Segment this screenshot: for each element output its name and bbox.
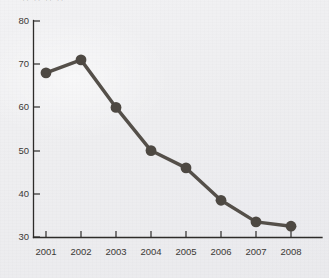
x-tick-label-2007: 2007: [245, 246, 266, 257]
x-axis-ticks: 2001 2002 2003 2004 2005 2006 2007 2008: [35, 231, 301, 257]
data-point-marker: [111, 102, 122, 113]
data-point-marker: [41, 67, 52, 78]
chart-container: ·· ·· ·· ·· 80 70 60 50 40 30: [0, 0, 329, 278]
y-axis-ticks: 80 70 60 50 40 30: [18, 15, 40, 242]
x-tick-label-2004: 2004: [140, 246, 161, 257]
y-tick-label-50: 50: [18, 145, 29, 156]
data-point-marker: [76, 54, 87, 65]
x-tick-label-2008: 2008: [280, 246, 301, 257]
x-tick-label-2006: 2006: [210, 246, 231, 257]
y-tick-label-60: 60: [18, 101, 29, 112]
x-tick-label-2005: 2005: [175, 246, 196, 257]
data-point-marker: [181, 162, 192, 173]
data-point-marker: [216, 195, 227, 206]
x-tick-label-2003: 2003: [105, 246, 126, 257]
y-tick-label-80: 80: [18, 15, 29, 26]
line-chart-plot: 80 70 60 50 40 30 2001 2002 2003 2004 20…: [0, 0, 329, 278]
y-tick-label-70: 70: [18, 58, 29, 69]
data-point-marker: [286, 221, 297, 232]
data-point-marker: [251, 216, 262, 227]
series-markers-group: [41, 54, 297, 231]
y-tick-label-40: 40: [18, 188, 29, 199]
y-tick-label-30: 30: [18, 231, 29, 242]
x-tick-label-2001: 2001: [35, 246, 56, 257]
x-tick-label-2002: 2002: [70, 246, 91, 257]
data-point-marker: [146, 145, 157, 156]
series-line-path: [46, 60, 291, 226]
